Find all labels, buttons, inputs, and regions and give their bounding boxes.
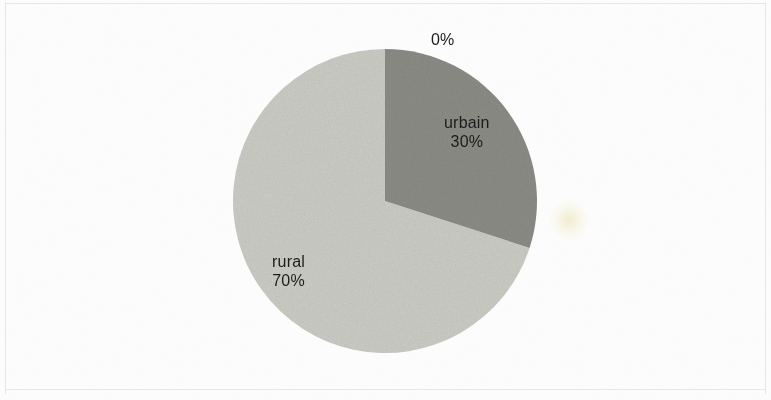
pie-chart-svg	[233, 49, 537, 353]
pie-label-rural: rural 70%	[272, 252, 305, 290]
pie-label-zero: 0%	[431, 30, 455, 49]
pie-label-rural-value: 70%	[272, 271, 305, 290]
figure-border-right	[765, 2, 766, 394]
figure-border-left	[5, 2, 6, 394]
pie-label-urbain-value: 30%	[444, 132, 490, 151]
pie-label-rural-name: rural	[272, 252, 305, 271]
scan-artifact-smudge	[548, 199, 590, 241]
pie-label-zero-value: 0%	[431, 31, 455, 48]
pie-chart	[233, 49, 537, 353]
chart-figure: 0% urbain 30% rural 70%	[0, 0, 771, 400]
pie-label-urbain: urbain 30%	[444, 113, 490, 151]
pie-label-urbain-name: urbain	[444, 113, 490, 132]
figure-border-top	[5, 3, 766, 4]
figure-border-bottom	[5, 389, 766, 390]
